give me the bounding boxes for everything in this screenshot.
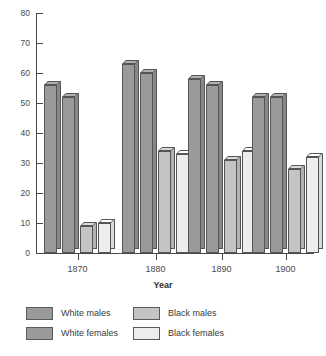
y-tick bbox=[36, 73, 43, 74]
legend-label: Black males bbox=[168, 308, 217, 318]
legend-label: White females bbox=[61, 328, 118, 338]
y-tick bbox=[36, 103, 43, 104]
y-tick bbox=[36, 223, 43, 224]
bar-side bbox=[237, 156, 241, 249]
y-tick-label: 70 bbox=[0, 39, 30, 47]
legend-label: Black females bbox=[168, 328, 224, 338]
bar bbox=[206, 85, 219, 253]
bar-face bbox=[188, 79, 201, 253]
legend-swatch bbox=[133, 307, 160, 320]
x-tick-label: 1900 bbox=[260, 264, 312, 274]
bar bbox=[288, 169, 301, 253]
bar-face bbox=[98, 223, 111, 253]
x-tick bbox=[222, 253, 223, 260]
bar bbox=[224, 160, 237, 253]
bar bbox=[252, 97, 265, 253]
bar-face bbox=[252, 97, 265, 253]
x-axis-title: Year bbox=[0, 280, 326, 290]
bar-side bbox=[219, 81, 223, 249]
bar-face bbox=[224, 160, 237, 253]
bar-side bbox=[171, 147, 175, 249]
bar bbox=[188, 79, 201, 253]
bar-face bbox=[122, 64, 135, 253]
legend-swatch bbox=[26, 327, 53, 340]
x-tick bbox=[156, 253, 157, 260]
y-tick bbox=[36, 163, 43, 164]
bar-side bbox=[57, 81, 61, 249]
bar-face bbox=[80, 226, 93, 253]
x-tick bbox=[286, 253, 287, 260]
bar-side bbox=[265, 93, 269, 249]
x-tick-label: 1890 bbox=[196, 264, 248, 274]
bar-face bbox=[306, 157, 319, 253]
legend-swatch bbox=[26, 307, 53, 320]
bar-face bbox=[288, 169, 301, 253]
bar-side bbox=[301, 165, 305, 249]
chart-legend: White malesBlack malesWhite femalesBlack… bbox=[0, 300, 326, 356]
plot-area: 01020304050607080 1870188018901900 Year bbox=[0, 0, 326, 300]
bar bbox=[122, 64, 135, 253]
y-tick-label: 50 bbox=[0, 99, 30, 107]
bar-face bbox=[158, 151, 171, 253]
bar-face bbox=[62, 97, 75, 253]
bar bbox=[270, 97, 283, 253]
bar-side bbox=[111, 219, 115, 249]
y-tick-label: 60 bbox=[0, 69, 30, 77]
y-tick-label: 80 bbox=[0, 9, 30, 17]
legend-swatch bbox=[133, 327, 160, 340]
bar bbox=[306, 157, 319, 253]
bar bbox=[140, 73, 153, 253]
bar-side bbox=[93, 222, 97, 249]
bar-face bbox=[44, 85, 57, 253]
bar-side bbox=[201, 75, 205, 249]
bar bbox=[44, 85, 57, 253]
bar-face bbox=[270, 97, 283, 253]
x-tick bbox=[78, 253, 79, 260]
x-tick-label: 1880 bbox=[130, 264, 182, 274]
y-tick bbox=[36, 133, 43, 134]
y-tick-label: 30 bbox=[0, 159, 30, 167]
bar-side bbox=[135, 60, 139, 249]
y-tick-label: 20 bbox=[0, 189, 30, 197]
y-tick bbox=[36, 13, 43, 14]
y-tick-label: 40 bbox=[0, 129, 30, 137]
y-tick-label: 0 bbox=[0, 249, 30, 257]
x-tick-label: 1870 bbox=[52, 264, 104, 274]
bar bbox=[62, 97, 75, 253]
bar-face bbox=[206, 85, 219, 253]
y-tick bbox=[36, 43, 43, 44]
bar-side bbox=[319, 153, 323, 249]
bar-side bbox=[153, 69, 157, 249]
bar-face bbox=[140, 73, 153, 253]
bar-side bbox=[283, 93, 287, 249]
bar-side bbox=[75, 93, 79, 249]
bar bbox=[80, 226, 93, 253]
y-tick bbox=[36, 253, 43, 254]
y-tick bbox=[36, 193, 43, 194]
y-tick-label: 10 bbox=[0, 219, 30, 227]
bar bbox=[158, 151, 171, 253]
bar-chart: 01020304050607080 1870188018901900 Year … bbox=[0, 0, 326, 356]
bar bbox=[98, 223, 111, 253]
legend-label: White males bbox=[61, 308, 111, 318]
